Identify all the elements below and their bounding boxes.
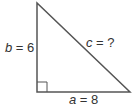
side-b-label: b = 6: [5, 40, 34, 55]
side-a-label: a = 8: [69, 92, 98, 107]
side-c-label: c = ?: [86, 35, 115, 50]
right-angle-marker: [37, 82, 47, 92]
triangle-outline: [37, 3, 130, 92]
right-triangle-diagram: b = 6 c = ? a = 8: [0, 0, 133, 108]
